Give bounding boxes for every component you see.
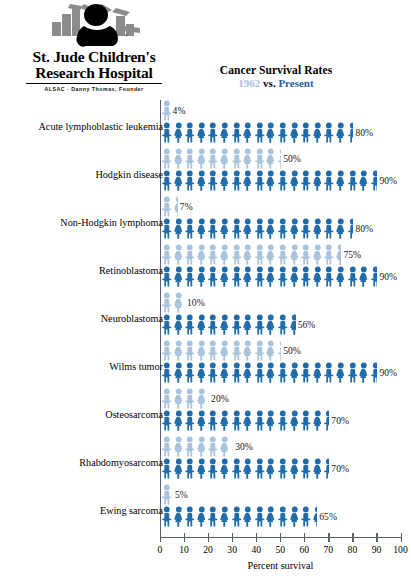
x-tick bbox=[160, 533, 161, 542]
logo-divider bbox=[26, 83, 162, 84]
figure-icons bbox=[161, 100, 171, 121]
value-label: 20% bbox=[211, 393, 229, 404]
value-label: 90% bbox=[379, 271, 397, 282]
x-axis-title: Percent survival bbox=[160, 560, 401, 571]
value-label: 70% bbox=[331, 415, 349, 426]
row-label-neuroblastoma: Neuroblastoma bbox=[3, 313, 163, 324]
figure-icons bbox=[161, 170, 377, 191]
figure-icons bbox=[161, 266, 377, 287]
x-tick bbox=[208, 533, 209, 542]
chart-row: Non-Hodgkin lymphoma7%80% bbox=[0, 196, 411, 242]
value-label: 10% bbox=[187, 297, 205, 308]
bar-1962-retinoblastoma: 75% bbox=[161, 244, 361, 265]
st-jude-logo: ® St. Jude Children's Research Hospital … bbox=[14, 2, 174, 94]
value-label: 80% bbox=[355, 127, 373, 138]
logo-name-line1: St. Jude Children's bbox=[33, 48, 156, 65]
x-axis: 0102030405060708090100 Percent survival bbox=[0, 533, 411, 579]
figure-icons bbox=[161, 506, 317, 527]
x-tick bbox=[401, 533, 402, 542]
row-label-wilms-tumor: Wilms tumor bbox=[3, 361, 163, 372]
bar-1962-wilms-tumor: 50% bbox=[161, 340, 301, 361]
subtitle-vs: vs. bbox=[263, 77, 276, 89]
bar-present-osteosarcoma: 70% bbox=[161, 410, 349, 431]
chart-row: Neuroblastoma10%56% bbox=[0, 292, 411, 338]
bar-1962-neuroblastoma: 10% bbox=[161, 292, 205, 313]
row-label-acute-lymphoblastic-leukemia: Acute lymphoblastic leukemia bbox=[3, 121, 163, 132]
bar-1962-hodgkin-disease: 50% bbox=[161, 148, 301, 169]
figure-icons bbox=[161, 436, 233, 457]
svg-text:®: ® bbox=[124, 33, 128, 38]
bar-present-non-hodgkin-lymphoma: 80% bbox=[161, 218, 373, 239]
figure-icons bbox=[161, 458, 329, 479]
legend-label-1962: 1962 bbox=[238, 77, 260, 89]
chart-row: Osteosarcoma20%70% bbox=[0, 388, 411, 434]
figure-icons bbox=[161, 122, 353, 143]
chart-row: Acute lymphoblastic leukemia4%80% bbox=[0, 100, 411, 146]
value-label: 80% bbox=[355, 223, 373, 234]
row-label-osteosarcoma: Osteosarcoma bbox=[3, 409, 163, 420]
x-tick bbox=[328, 533, 329, 542]
logo-tagline: ALSAC · Danny Thomas, Founder bbox=[44, 86, 143, 92]
figure-icons bbox=[161, 196, 178, 217]
value-label: 75% bbox=[343, 249, 361, 260]
x-tick bbox=[376, 533, 377, 542]
x-tick bbox=[184, 533, 185, 542]
bar-1962-ewing-sarcoma: 5% bbox=[161, 484, 188, 505]
figure-icons bbox=[161, 148, 281, 169]
bar-1962-acute-lymphoblastic-leukemia: 4% bbox=[161, 100, 185, 121]
x-tick bbox=[256, 533, 257, 542]
value-label: 70% bbox=[331, 463, 349, 474]
chart-title-block: Cancer Survival Rates 1962 vs. Present bbox=[186, 64, 366, 89]
x-tick bbox=[232, 533, 233, 542]
x-tick bbox=[280, 533, 281, 542]
x-tick-label: 100 bbox=[386, 544, 411, 555]
value-label: 5% bbox=[175, 489, 188, 500]
value-label: 4% bbox=[173, 105, 186, 116]
value-label: 56% bbox=[298, 319, 316, 330]
bar-present-rhabdomyosarcoma: 70% bbox=[161, 458, 349, 479]
row-label-rhabdomyosarcoma: Rhabdomyosarcoma bbox=[3, 457, 163, 468]
value-label: 7% bbox=[180, 201, 193, 212]
row-label-non-hodgkin-lymphoma: Non-Hodgkin lymphoma bbox=[3, 217, 163, 228]
bar-1962-rhabdomyosarcoma: 30% bbox=[161, 436, 253, 457]
row-label-retinoblastoma: Retinoblastoma bbox=[3, 265, 163, 276]
logo-wordmark: St. Jude Children's Research Hospital bbox=[33, 49, 156, 80]
bar-1962-non-hodgkin-lymphoma: 7% bbox=[161, 196, 193, 217]
figure-icons bbox=[161, 410, 329, 431]
row-label-ewing-sarcoma: Ewing sarcoma bbox=[3, 505, 163, 516]
chart-row: Ewing sarcoma5%65% bbox=[0, 484, 411, 530]
bar-present-hodgkin-disease: 90% bbox=[161, 170, 397, 191]
figure-icons bbox=[161, 292, 185, 313]
figure-icons bbox=[161, 218, 353, 239]
x-tick bbox=[304, 533, 305, 542]
legend-label-present: Present bbox=[278, 77, 313, 89]
value-label: 50% bbox=[283, 153, 301, 164]
x-tick bbox=[352, 533, 353, 542]
figure-icons bbox=[161, 388, 209, 409]
chart-subtitle: 1962 vs. Present bbox=[186, 77, 366, 89]
figure-icons bbox=[161, 362, 377, 383]
chart-row: Rhabdomyosarcoma30%70% bbox=[0, 436, 411, 482]
bar-present-retinoblastoma: 90% bbox=[161, 266, 397, 287]
chart-title: Cancer Survival Rates bbox=[186, 64, 366, 76]
figure-icons bbox=[161, 340, 281, 361]
chart-row: Hodgkin disease50%90% bbox=[0, 148, 411, 194]
bar-present-neuroblastoma: 56% bbox=[161, 314, 315, 335]
bar-1962-osteosarcoma: 20% bbox=[161, 388, 229, 409]
value-label: 65% bbox=[319, 511, 337, 522]
bar-present-acute-lymphoblastic-leukemia: 80% bbox=[161, 122, 373, 143]
pictograph-chart: Acute lymphoblastic leukemia4%80%Hodgkin… bbox=[0, 98, 411, 535]
chart-row: Wilms tumor50%90% bbox=[0, 340, 411, 386]
st-jude-child-logo-icon: ® bbox=[40, 2, 148, 48]
value-label: 90% bbox=[379, 175, 397, 186]
figure-icons bbox=[161, 314, 296, 335]
chart-row: Retinoblastoma75%90% bbox=[0, 244, 411, 290]
value-label: 50% bbox=[283, 345, 301, 356]
figure-icons bbox=[161, 484, 173, 505]
value-label: 30% bbox=[235, 441, 253, 452]
value-label: 90% bbox=[379, 367, 397, 378]
bar-present-wilms-tumor: 90% bbox=[161, 362, 397, 383]
infographic-page: ® St. Jude Children's Research Hospital … bbox=[0, 0, 411, 579]
row-label-hodgkin-disease: Hodgkin disease bbox=[3, 169, 163, 180]
figure-icons bbox=[161, 244, 341, 265]
